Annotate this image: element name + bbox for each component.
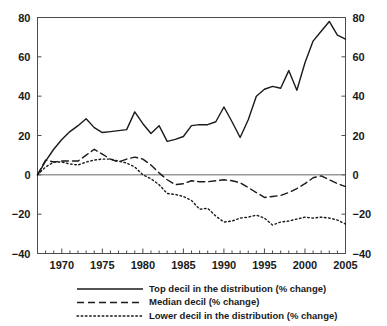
y-tick-label-right: 60	[353, 51, 365, 63]
chart-legend: Top decil in the distribution (% change)…	[77, 283, 337, 321]
x-tick-label: 1985	[171, 259, 195, 271]
legend-label-1: Median decil (% change)	[149, 296, 259, 307]
y-tick-label-right: 20	[353, 130, 365, 142]
series-line-1	[38, 149, 346, 197]
y-tick-label-left: 80	[18, 12, 30, 24]
y-tick-label-left: 60	[18, 51, 30, 63]
series-line-2	[38, 159, 346, 225]
x-axis: 19701975198019851990199520002005	[38, 249, 358, 271]
y-tick-label-right: 0	[353, 169, 359, 181]
y-tick-label-right: 40	[353, 90, 365, 102]
y-tick-label-left: 40	[18, 90, 30, 102]
y-tick-label-left: 20	[18, 130, 30, 142]
series-line-0	[38, 21, 346, 174]
y-tick-label-right: −20	[353, 208, 372, 220]
y-tick-label-left: −40	[12, 248, 31, 260]
chart-figure: −40−20020406080 −40−20020406080 19701975…	[0, 0, 387, 326]
x-tick-label: 2005	[333, 259, 357, 271]
legend-label-2: Lower decil in the distribution (% chang…	[149, 310, 337, 321]
x-tick-label: 1975	[90, 259, 114, 271]
line-chart: −40−20020406080 −40−20020406080 19701975…	[0, 0, 387, 326]
series-group	[38, 21, 346, 225]
x-tick-label: 1970	[50, 259, 74, 271]
x-tick-label: 1990	[212, 259, 236, 271]
legend-label-0: Top decil in the distribution (% change)	[149, 283, 326, 294]
x-tick-label: 1980	[131, 259, 155, 271]
y-tick-label-right: 80	[353, 12, 365, 24]
x-tick-label: 2000	[293, 259, 317, 271]
y-tick-label-left: 0	[24, 169, 30, 181]
x-tick-label: 1995	[252, 259, 276, 271]
y-tick-label-left: −20	[12, 208, 31, 220]
